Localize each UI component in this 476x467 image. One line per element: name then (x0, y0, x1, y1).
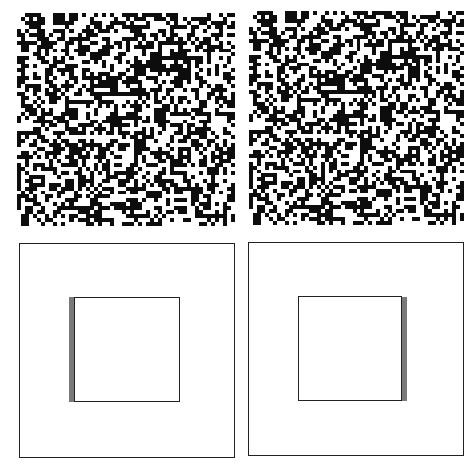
stereogram-left-panel (17, 13, 235, 226)
random-dot-pattern-left (17, 13, 235, 226)
random-dot-pattern-right (249, 11, 464, 225)
stereogram-right-panel (249, 11, 464, 225)
schematic-left-inner-square (74, 297, 180, 402)
schematic-right-inner-square (298, 296, 402, 401)
